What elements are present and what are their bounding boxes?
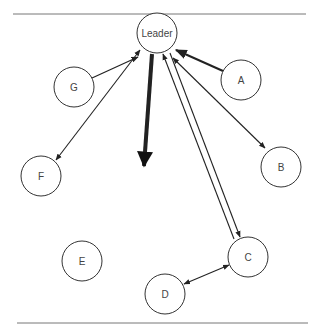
node-label-g: G xyxy=(70,82,78,93)
node-f: F xyxy=(21,156,61,196)
node-e: E xyxy=(62,241,102,281)
node-d: D xyxy=(145,274,185,314)
node-g: G xyxy=(54,67,94,107)
node-a: A xyxy=(221,60,261,100)
node-label-a: A xyxy=(238,75,245,86)
node-label-b: B xyxy=(278,162,285,173)
node-c: C xyxy=(228,237,268,277)
node-b: B xyxy=(261,147,301,187)
edge-c-d xyxy=(184,265,229,284)
node-leader: Leader xyxy=(137,13,177,53)
node-label-f: F xyxy=(38,171,44,182)
node-label-e: E xyxy=(79,256,86,267)
node-label-d: D xyxy=(161,289,168,300)
node-label-c: C xyxy=(244,252,251,263)
communication-network-diagram: Leader A B C D E F G xyxy=(0,0,317,329)
edge-leader-heavy xyxy=(144,54,152,166)
node-label-leader: Leader xyxy=(141,28,173,39)
edge-g-leader xyxy=(92,57,138,78)
